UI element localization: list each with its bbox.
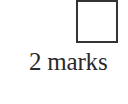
marks-label: 2 marks: [29, 48, 107, 76]
answer-box[interactable]: [76, 0, 118, 43]
